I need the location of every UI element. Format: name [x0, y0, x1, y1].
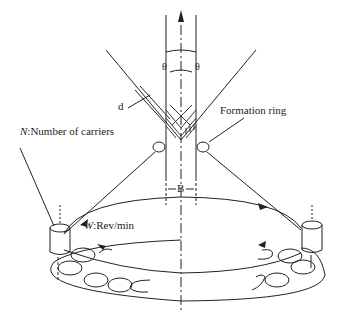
- rotation-path-lower: [64, 250, 301, 273]
- carriers-text: :Number of carriers: [27, 125, 114, 137]
- carriers-label: N:Number of carriers: [20, 126, 114, 137]
- mandrel-width-label: B: [177, 183, 184, 194]
- formation-ring-right: [197, 142, 209, 152]
- angle-theta-right: θ: [195, 62, 200, 72]
- rotation-arrow-right-icon: [258, 203, 268, 210]
- yarn-right: [207, 152, 301, 230]
- formation-ring-label: Formation ring: [220, 105, 286, 116]
- track-loops-right: [252, 249, 315, 290]
- formation-ring-leader: [209, 118, 244, 142]
- speed-symbol: W: [84, 219, 93, 231]
- yarn-width-label: d: [118, 101, 124, 112]
- carriers-leader: [20, 148, 54, 226]
- diagram-canvas: [0, 0, 338, 333]
- braiding-diagram: N:Number of carriers W:Rev/min Formation…: [0, 0, 338, 333]
- carrier-left: [50, 205, 70, 280]
- left-yarn-line: [106, 50, 181, 140]
- speed-label: W:Rev/min: [84, 220, 134, 231]
- right-yarn-line: [181, 50, 256, 140]
- speed-text: :Rev/min: [93, 219, 134, 231]
- angle-theta-left: θ: [162, 62, 167, 72]
- d-leader: [128, 95, 150, 108]
- formation-ring-left: [153, 142, 165, 152]
- axis-arrow-icon: [178, 10, 184, 22]
